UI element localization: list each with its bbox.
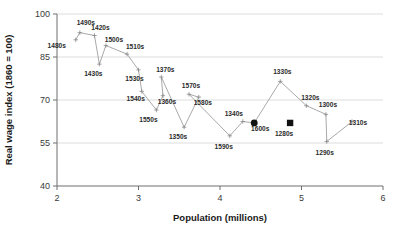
point-label-1570s: 1570s <box>182 82 201 89</box>
point-label-1310s: 1310s <box>349 119 368 126</box>
y-tick-label-70: 70 <box>40 95 50 105</box>
data-markers-group <box>74 30 355 143</box>
y-tick-label-100: 100 <box>35 9 50 19</box>
point-label-1290s: 1290s <box>316 149 335 156</box>
y-tick-label-55: 55 <box>40 138 50 148</box>
series-path-group <box>76 33 352 142</box>
gridlines-group <box>57 14 383 143</box>
point-label-1430s: 1430s <box>84 70 103 77</box>
x-tick-label-4: 4 <box>217 193 222 203</box>
x-axis-title: Population (millions) <box>173 212 267 223</box>
data-point-1280s <box>287 120 293 126</box>
point-label-1350s: 1350s <box>169 133 188 140</box>
point-label-1360s: 1360s <box>158 98 177 105</box>
real-wage-population-chart: 40557085100 23456 1490s1480s1420s1500s14… <box>0 0 410 228</box>
y-tick-group: 40557085100 <box>35 9 57 191</box>
y-tick-label-40: 40 <box>40 181 50 191</box>
point-label-1420s: 1420s <box>91 24 110 31</box>
series-line-0 <box>76 33 352 142</box>
point-label-1500s: 1500s <box>105 36 124 43</box>
chart-canvas: 40557085100 23456 1490s1480s1420s1500s14… <box>0 0 410 228</box>
x-axis-group: 23456 <box>54 186 385 203</box>
point-label-1370s: 1370s <box>156 66 175 73</box>
point-label-group: 1490s1480s1420s1500s1430s1510s1530s1540s… <box>48 19 368 156</box>
point-label-1550s: 1550s <box>139 116 158 123</box>
point-label-1530s: 1530s <box>125 75 144 82</box>
y-axis-title: Real wage index (1860 = 100) <box>3 35 14 166</box>
point-label-1280s: 1280s <box>275 130 294 137</box>
y-tick-label-85: 85 <box>40 52 50 62</box>
point-label-1330s: 1330s <box>273 68 292 75</box>
x-tick-label-3: 3 <box>136 193 141 203</box>
point-label-1600s: 1600s <box>251 125 270 132</box>
x-tick-label-5: 5 <box>299 193 304 203</box>
point-label-1510s: 1510s <box>126 43 145 50</box>
point-label-1590s: 1590s <box>215 143 234 150</box>
point-label-1300s: 1300s <box>319 101 338 108</box>
x-tick-label-6: 6 <box>380 193 385 203</box>
point-label-1540s: 1540s <box>127 95 146 102</box>
point-label-1340s: 1340s <box>225 110 244 117</box>
point-label-1480s: 1480s <box>48 42 67 49</box>
point-label-1580s: 1580s <box>194 99 213 106</box>
point-label-1320s: 1320s <box>301 94 320 101</box>
x-tick-label-2: 2 <box>54 193 59 203</box>
